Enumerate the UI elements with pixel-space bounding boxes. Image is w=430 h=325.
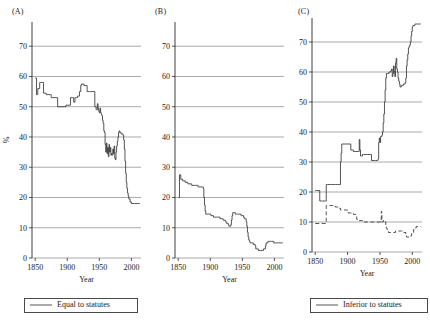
figure-container: (A) 0102030405060701850190019502000%Year… bbox=[0, 0, 430, 325]
panel-b: (B) 0102030405060701850190019502000Year … bbox=[143, 0, 288, 325]
series-line-1 bbox=[178, 175, 283, 251]
y-tick-label: 40 bbox=[162, 133, 170, 142]
y-tick-label: 10 bbox=[19, 224, 27, 233]
series-line-1 bbox=[315, 24, 420, 201]
panel-a: (A) 0102030405060701850190019502000%Year… bbox=[0, 0, 145, 325]
x-tick-label: 1950 bbox=[91, 263, 107, 272]
x-tick-label: 2000 bbox=[123, 263, 139, 272]
y-tick-label: 60 bbox=[299, 68, 307, 77]
x-tick-label: 2000 bbox=[266, 263, 282, 272]
y-tick-label: 40 bbox=[19, 133, 27, 142]
panel-c: (C) 0102030405060701850190019502000Year … bbox=[286, 0, 430, 325]
x-axis-title: Year bbox=[360, 269, 375, 278]
y-tick-label: 30 bbox=[162, 163, 170, 172]
y-tick-label: 60 bbox=[19, 72, 27, 81]
series-line-2 bbox=[315, 206, 420, 238]
y-tick-label: 50 bbox=[299, 98, 307, 107]
x-tick-label: 1850 bbox=[170, 263, 186, 272]
legend-label: Equal to statutes bbox=[57, 300, 110, 309]
y-tick-label: 70 bbox=[162, 42, 170, 51]
y-tick-label: 70 bbox=[19, 42, 27, 51]
y-tick-label: 30 bbox=[19, 163, 27, 172]
panel-b-letter: (B) bbox=[155, 7, 166, 16]
x-tick-label: 1850 bbox=[27, 263, 43, 272]
x-axis-title: Year bbox=[222, 275, 237, 284]
y-tick-label: 30 bbox=[299, 158, 307, 167]
y-tick-label: 0 bbox=[303, 248, 307, 257]
y-tick-label: 60 bbox=[162, 72, 170, 81]
x-tick-label: 1900 bbox=[59, 263, 75, 272]
x-tick-label: 1950 bbox=[372, 257, 388, 266]
y-tick-label: 40 bbox=[299, 128, 307, 137]
y-axis-label: % bbox=[2, 136, 11, 143]
panel-a-letter: (A) bbox=[12, 7, 24, 16]
panel-c-plot: 0102030405060701850190019502000Year bbox=[286, 0, 430, 286]
y-tick-label: 20 bbox=[19, 193, 27, 202]
y-tick-label: 10 bbox=[162, 224, 170, 233]
legend-item: Equal to statutes bbox=[25, 299, 137, 310]
x-tick-label: 1950 bbox=[234, 263, 250, 272]
y-tick-label: 10 bbox=[299, 218, 307, 227]
legend-key-solid-icon bbox=[30, 301, 52, 309]
y-tick-label: 50 bbox=[19, 103, 27, 112]
panel-c-letter: (C) bbox=[298, 7, 309, 16]
y-tick-label: 20 bbox=[299, 188, 307, 197]
panel-a-plot: 0102030405060701850190019502000%Year bbox=[0, 0, 145, 292]
x-tick-label: 2000 bbox=[404, 257, 420, 266]
x-axis-title: Year bbox=[79, 275, 94, 284]
series-line-1 bbox=[35, 78, 140, 204]
y-tick-label: 20 bbox=[162, 193, 170, 202]
x-tick-label: 1900 bbox=[202, 263, 218, 272]
y-tick-label: 70 bbox=[299, 38, 307, 47]
y-tick-label: 0 bbox=[166, 254, 170, 263]
x-tick-label: 1850 bbox=[307, 257, 323, 266]
panel-a-legend: Equal to statutes bbox=[24, 298, 138, 313]
y-tick-label: 0 bbox=[23, 254, 27, 263]
x-tick-label: 1900 bbox=[340, 257, 356, 266]
y-tick-label: 50 bbox=[162, 103, 170, 112]
panel-b-plot: 0102030405060701850190019502000Year bbox=[143, 0, 288, 292]
